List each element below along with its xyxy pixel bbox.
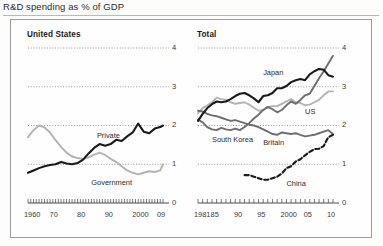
x-axis-tick-label: 09: [157, 211, 165, 219]
series-line-government: [28, 126, 163, 175]
chart-panel-total: Total 01234198185909520000510JapanUSSout…: [191, 19, 372, 238]
chart-svg: [28, 48, 163, 215]
x-axis-tick-label: 85: [211, 211, 219, 219]
x-axis-tick-label: 70: [50, 211, 58, 219]
series-label-government: Government: [91, 179, 132, 187]
y-axis-tick-label: 1: [342, 160, 356, 168]
series-label-south-korea: South Korea: [212, 136, 253, 144]
series-label-britain: Britain: [263, 139, 284, 147]
x-axis-tick-label: 95: [257, 211, 265, 219]
x-axis-tick-label: 10: [327, 211, 335, 219]
series-label-us: US: [305, 108, 315, 116]
series-line-south-korea: [198, 56, 333, 130]
x-axis-tick-label: 2000: [132, 211, 148, 219]
figure-root: R&D spending as % of GDP United States 0…: [0, 0, 383, 246]
x-axis-tick-label: 1960: [24, 211, 40, 219]
series-label-china: China: [286, 180, 305, 188]
x-axis-tick-label: 90: [234, 211, 242, 219]
y-axis-tick-label: 2: [342, 121, 356, 129]
x-axis-tick-label: 05: [304, 211, 312, 219]
y-axis-tick-label: 4: [172, 44, 186, 52]
y-axis-tick-label: 0: [342, 199, 356, 207]
series-label-private: Private: [97, 132, 120, 140]
x-axis-tick-label: 90: [105, 211, 113, 219]
x-axis-tick-label: 1981: [194, 211, 210, 219]
series-label-japan: Japan: [263, 69, 283, 77]
y-axis-tick-label: 1: [172, 160, 186, 168]
chart-panel-united-states: United States 012341960708090200009Priva…: [10, 19, 191, 238]
x-axis-tick-label: 80: [77, 211, 85, 219]
figure-title: R&D spending as % of GDP: [3, 1, 124, 12]
y-axis-tick-label: 0: [172, 199, 186, 207]
title-divider: [3, 15, 379, 16]
x-axis-tick-label: 2000: [280, 211, 296, 219]
y-axis-tick-label: 3: [342, 83, 356, 91]
series-line-china: [245, 135, 333, 180]
chart-title-total: Total: [197, 30, 216, 39]
chart-title-united-states: United States: [27, 30, 81, 39]
y-axis-tick-label: 2: [172, 121, 186, 129]
y-axis-tick-label: 4: [342, 44, 356, 52]
y-axis-tick-label: 3: [172, 83, 186, 91]
